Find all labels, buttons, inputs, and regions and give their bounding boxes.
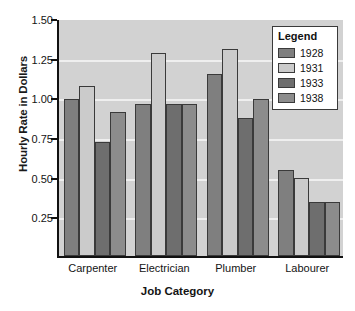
legend-label: 1928	[300, 47, 323, 59]
legend: Legend 1928193119331938	[272, 26, 338, 110]
legend-entries: 1928193119331938	[278, 45, 332, 105]
bar	[238, 118, 254, 256]
legend-label: 1931	[300, 62, 323, 74]
x-axis-title: Job Category	[0, 285, 355, 297]
legend-title: Legend	[278, 30, 332, 43]
bar	[95, 142, 111, 256]
legend-entry: 1928	[278, 45, 332, 60]
bar	[309, 202, 325, 256]
legend-entry: 1933	[278, 75, 332, 90]
bar	[166, 104, 182, 256]
bar	[79, 86, 95, 256]
y-axis-tick-label: 1.25	[7, 54, 53, 66]
bar	[294, 178, 310, 256]
bar	[110, 112, 126, 256]
x-axis-tick-label: Labourer	[285, 262, 329, 274]
x-axis-tick-label: Plumber	[215, 262, 256, 274]
bar-chart: Hourly Rate in Dollars 1.501.251.000.750…	[0, 0, 355, 311]
bar	[64, 99, 80, 256]
legend-swatch	[278, 78, 295, 88]
x-axis-tick-label: Electrician	[139, 262, 190, 274]
legend-swatch	[278, 93, 295, 103]
bar	[182, 104, 198, 256]
legend-label: 1938	[300, 92, 323, 104]
y-axis-tick-label: 0.50	[7, 173, 53, 185]
bar	[151, 53, 167, 256]
bar	[222, 49, 238, 256]
y-axis-tick-label: 1.50	[7, 14, 53, 26]
bar	[135, 104, 151, 256]
legend-label: 1933	[300, 77, 323, 89]
legend-swatch	[278, 48, 295, 58]
legend-entry: 1931	[278, 60, 332, 75]
bar	[253, 99, 269, 256]
bar	[207, 74, 223, 256]
legend-swatch	[278, 63, 295, 73]
y-axis-tick-label: 1.00	[7, 93, 53, 105]
y-axis-tick-label: 0.25	[7, 212, 53, 224]
x-axis-tick-label: Carpenter	[68, 262, 117, 274]
bar	[278, 170, 294, 256]
y-axis-tick-label: 0.75	[7, 133, 53, 145]
legend-entry: 1938	[278, 90, 332, 105]
bar	[325, 202, 341, 256]
